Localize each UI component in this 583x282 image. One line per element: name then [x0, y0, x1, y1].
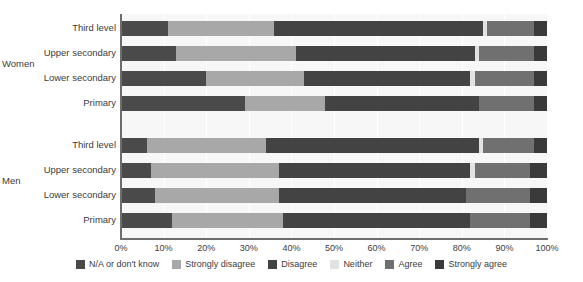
- bar-segment-n-a-or-don-t-know: [121, 188, 155, 203]
- bar-segment-strongly-disagree: [151, 163, 279, 178]
- bar-group-women: [121, 14, 547, 118]
- legend-swatch-icon: [172, 260, 181, 269]
- bar-segment-n-a-or-don-t-know: [121, 213, 172, 228]
- legend-item-neither[interactable]: Neither: [330, 259, 372, 269]
- legend-swatch-icon: [330, 260, 339, 269]
- x-tick-label-60: 60%: [368, 243, 386, 253]
- x-tick-label-20: 20%: [197, 243, 215, 253]
- men-label-third-level: Third level: [4, 140, 116, 150]
- group-label-men: Men: [2, 175, 20, 186]
- bar-segment-strongly-agree: [534, 21, 547, 36]
- x-tick-label-80: 80%: [453, 243, 471, 253]
- bar-segment-disagree: [325, 96, 478, 111]
- bar-segment-disagree: [279, 163, 471, 178]
- bar-third-level: [121, 138, 547, 153]
- legend-label: Agree: [398, 259, 422, 269]
- x-tick-label-40: 40%: [282, 243, 300, 253]
- gridline-100: [547, 14, 548, 238]
- x-axis-line: [120, 238, 548, 240]
- legend-item-strongly-disagree[interactable]: Strongly disagree: [172, 259, 255, 269]
- legend-label: Neither: [343, 259, 372, 269]
- women-label-third-level: Third level: [4, 23, 116, 33]
- bar-lower-secondary: [121, 71, 547, 86]
- bar-segment-strongly-agree: [534, 46, 547, 61]
- bar-segment-strongly-disagree: [168, 21, 275, 36]
- women-label-primary: Primary: [4, 98, 116, 108]
- bar-segment-strongly-disagree: [147, 138, 266, 153]
- bar-segment-strongly-disagree: [245, 96, 326, 111]
- x-tick-label-90: 90%: [495, 243, 513, 253]
- legend-label: N/A or don't know: [89, 259, 159, 269]
- bar-segment-disagree: [283, 213, 470, 228]
- bar-segment-strongly-agree: [530, 213, 547, 228]
- women-label-lower-secondary: Lower secondary: [4, 73, 116, 83]
- bar-primary: [121, 96, 547, 111]
- bar-segment-agree: [479, 96, 534, 111]
- bar-segment-n-a-or-don-t-know: [121, 138, 147, 153]
- bar-segment-n-a-or-don-t-know: [121, 21, 168, 36]
- bar-segment-n-a-or-don-t-know: [121, 71, 206, 86]
- bar-segment-strongly-agree: [534, 96, 547, 111]
- bar-segment-disagree: [296, 46, 475, 61]
- stacked-bar-chart: Third levelUpper secondaryLower secondar…: [0, 0, 583, 282]
- legend-label: Disagree: [281, 259, 317, 269]
- men-label-primary: Primary: [4, 215, 116, 225]
- legend-item-n-a-or-don-t-know[interactable]: N/A or don't know: [76, 259, 159, 269]
- x-tick-label-30: 30%: [240, 243, 258, 253]
- legend-item-agree[interactable]: Agree: [385, 259, 422, 269]
- bar-upper-secondary: [121, 163, 547, 178]
- bar-segment-strongly-disagree: [172, 213, 283, 228]
- bar-segment-n-a-or-don-t-know: [121, 46, 176, 61]
- bar-primary: [121, 213, 547, 228]
- bar-segment-agree: [475, 71, 535, 86]
- legend-item-disagree[interactable]: Disagree: [268, 259, 317, 269]
- legend-swatch-icon: [435, 260, 444, 269]
- legend-item-strongly-agree[interactable]: Strongly agree: [435, 259, 507, 269]
- men-label-lower-secondary: Lower secondary: [4, 190, 116, 200]
- x-tick-label-50: 50%: [325, 243, 343, 253]
- bar-segment-agree: [466, 188, 530, 203]
- x-tick-label-10: 10%: [155, 243, 173, 253]
- group-label-women: Women: [2, 58, 35, 69]
- bar-segment-strongly-disagree: [206, 71, 304, 86]
- bar-segment-strongly-disagree: [155, 188, 279, 203]
- category-label-stack: Third levelUpper secondaryLower secondar…: [0, 14, 116, 238]
- legend-label: Strongly agree: [448, 259, 507, 269]
- legend-swatch-icon: [76, 260, 85, 269]
- x-tick-label-70: 70%: [410, 243, 428, 253]
- bar-third-level: [121, 21, 547, 36]
- bar-segment-agree: [479, 46, 534, 61]
- bar-segment-strongly-disagree: [176, 46, 295, 61]
- bar-segment-strongly-agree: [534, 71, 547, 86]
- bar-segment-strongly-agree: [530, 188, 547, 203]
- chart-legend: N/A or don't knowStrongly disagreeDisagr…: [0, 259, 583, 269]
- bar-segment-agree: [487, 21, 534, 36]
- bar-segment-disagree: [304, 71, 470, 86]
- bar-segment-n-a-or-don-t-know: [121, 163, 151, 178]
- bar-upper-secondary: [121, 46, 547, 61]
- bar-segment-disagree: [266, 138, 479, 153]
- legend-swatch-icon: [268, 260, 277, 269]
- bar-lower-secondary: [121, 188, 547, 203]
- bar-segment-strongly-agree: [534, 138, 547, 153]
- bar-segment-disagree: [279, 188, 466, 203]
- legend-label: Strongly disagree: [185, 259, 255, 269]
- men-label-upper-secondary: Upper secondary: [4, 165, 116, 175]
- legend-swatch-icon: [385, 260, 394, 269]
- y-axis-line: [120, 14, 122, 238]
- bar-segment-disagree: [274, 21, 483, 36]
- bar-group-men: [121, 131, 547, 235]
- plot-area: [121, 14, 547, 238]
- bar-segment-agree: [483, 138, 534, 153]
- x-tick-label-100: 100%: [535, 243, 558, 253]
- bar-segment-agree: [475, 163, 530, 178]
- x-tick-label-0: 0%: [114, 243, 127, 253]
- bar-segment-n-a-or-don-t-know: [121, 96, 245, 111]
- bar-segment-agree: [470, 213, 530, 228]
- women-label-upper-secondary: Upper secondary: [4, 48, 116, 58]
- bar-segment-strongly-agree: [530, 163, 547, 178]
